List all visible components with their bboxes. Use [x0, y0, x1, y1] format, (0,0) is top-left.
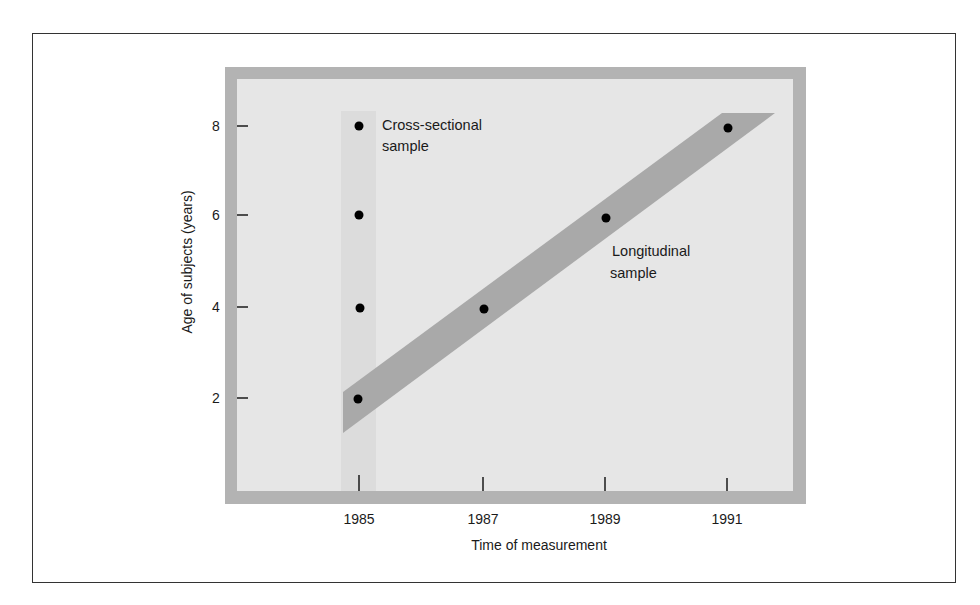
cross-sectional-label-line2: sample [382, 138, 429, 154]
cross-sectional-band [341, 111, 376, 491]
data-point [355, 211, 364, 220]
x-axis-title: Time of measurement [471, 537, 607, 553]
y-tick-label: 8 [212, 118, 220, 134]
y-axis-title: Age of subjects (years) [179, 190, 195, 333]
cross-sectional-label: Cross-sectional [382, 117, 482, 133]
data-point [354, 395, 363, 404]
data-point [480, 305, 489, 314]
data-point [602, 214, 611, 223]
y-tick-label: 6 [212, 207, 220, 223]
longitudinal-label: Longitudinal [612, 243, 690, 259]
y-tick-label: 4 [212, 299, 220, 315]
x-tick-label: 1987 [467, 511, 498, 527]
y-tick-label: 2 [212, 390, 220, 406]
x-tick-label: 1985 [343, 511, 374, 527]
data-point [355, 122, 364, 131]
x-tick-label: 1989 [589, 511, 620, 527]
data-point [356, 304, 365, 313]
longitudinal-label-line2: sample [610, 265, 657, 281]
x-tick-label: 1991 [711, 511, 742, 527]
data-point [724, 124, 733, 133]
chart: 8 6 4 2 Age of subjects (years) 1985 198… [0, 0, 980, 605]
